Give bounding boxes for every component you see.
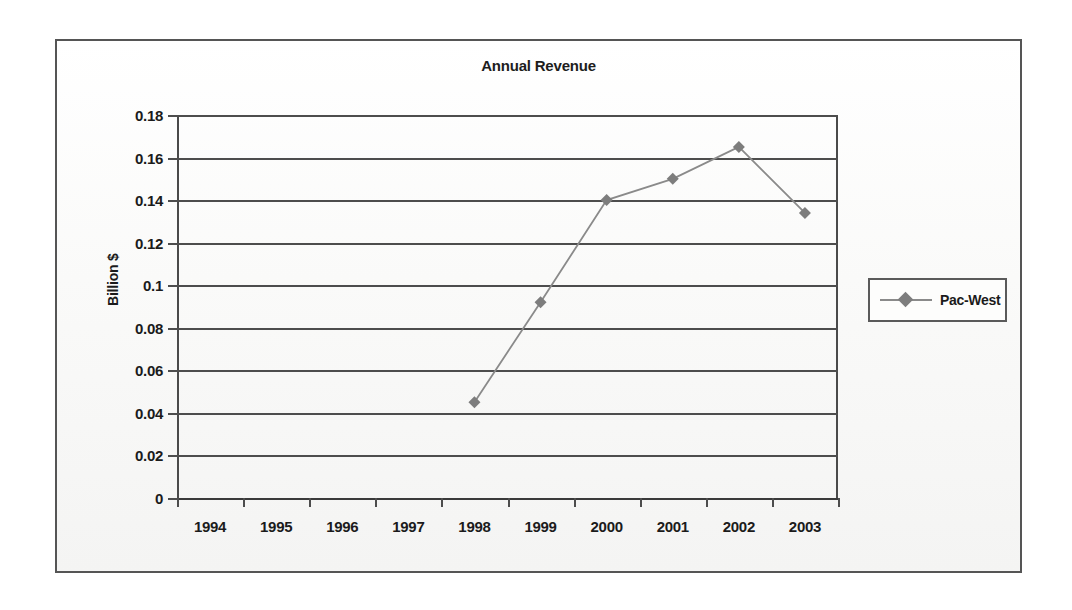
y-axis-tick-label: 0.1: [143, 277, 163, 294]
data-point-diamond-icon: [667, 173, 679, 185]
x-axis-tick-label: 1997: [392, 518, 424, 535]
x-axis-tick: [772, 498, 774, 507]
x-axis-tick: [574, 498, 576, 507]
x-axis-tick: [838, 498, 840, 507]
x-axis-tick-label: 2000: [591, 518, 623, 535]
legend-marker-diamond-icon: [880, 293, 932, 307]
y-axis-tick: [168, 498, 177, 500]
x-axis-tick-label: 2002: [723, 518, 755, 535]
x-axis-tick: [640, 498, 642, 507]
y-axis-tick: [168, 115, 177, 117]
data-point-diamond-icon: [601, 194, 613, 206]
x-axis-tick: [508, 498, 510, 507]
y-axis-tick-label: 0.18: [135, 107, 163, 124]
x-axis-tick-label: 1999: [524, 518, 556, 535]
y-axis-tick: [168, 200, 177, 202]
series-line: [474, 147, 805, 402]
x-axis-tick-label: 1998: [458, 518, 490, 535]
plot-area: 00.020.040.060.080.10.120.140.160.18 199…: [177, 115, 838, 498]
x-axis-tick: [441, 498, 443, 507]
y-axis-tick: [168, 370, 177, 372]
data-point-diamond-icon: [535, 296, 547, 308]
y-axis-tick: [168, 158, 177, 160]
legend-entry-pac-west: Pac-West: [870, 292, 1000, 308]
y-axis-tick: [168, 243, 177, 245]
x-axis-tick: [243, 498, 245, 507]
y-axis-tick: [168, 455, 177, 457]
x-axis-tick: [309, 498, 311, 507]
y-axis-tick: [168, 285, 177, 287]
x-axis-tick-label: 1994: [194, 518, 226, 535]
x-axis-tick-label: 2001: [657, 518, 689, 535]
y-axis-tick-label: 0.04: [135, 404, 163, 421]
y-axis-tick: [168, 328, 177, 330]
legend-box: Pac-West: [868, 278, 1007, 322]
series-plot: [177, 115, 838, 498]
chart-screenshot: Annual Revenue Billion $ 00.020.040.060.…: [0, 0, 1072, 610]
x-axis-tick-label: 1996: [326, 518, 358, 535]
y-axis-tick-label: 0.14: [135, 192, 163, 209]
x-axis-tick-label: 2003: [789, 518, 821, 535]
y-axis-tick-label: 0.12: [135, 234, 163, 251]
y-axis-tick-label: 0.16: [135, 149, 163, 166]
y-axis-title: Billion $: [105, 253, 121, 306]
chart-frame: Annual Revenue Billion $ 00.020.040.060.…: [55, 39, 1022, 573]
y-axis-tick-label: 0: [155, 490, 163, 507]
x-axis-tick: [706, 498, 708, 507]
data-point-diamond-icon: [468, 396, 480, 408]
legend-label: Pac-West: [940, 292, 1000, 308]
y-axis-tick: [168, 413, 177, 415]
y-axis-tick-label: 0.02: [135, 447, 163, 464]
x-axis-tick: [177, 498, 179, 507]
chart-title: Annual Revenue: [57, 57, 1020, 74]
x-axis-tick-label: 1995: [260, 518, 292, 535]
diamond-icon: [898, 292, 914, 308]
x-axis-tick: [375, 498, 377, 507]
y-axis-tick-label: 0.08: [135, 319, 163, 336]
y-axis-tick-label: 0.06: [135, 362, 163, 379]
